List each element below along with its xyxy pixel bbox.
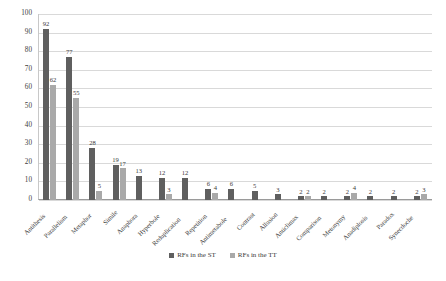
bar-column: 2 bbox=[321, 14, 327, 200]
bar-column: 6 bbox=[205, 14, 211, 200]
bar-value-label: 12 bbox=[159, 170, 166, 177]
y-axis-tick-label: 70 bbox=[25, 66, 32, 73]
bar-column: 3 bbox=[166, 14, 172, 200]
bar bbox=[113, 165, 119, 200]
bar-value-label: 92 bbox=[43, 21, 50, 28]
y-axis-tick-label: 50 bbox=[25, 103, 32, 110]
bar-column: 0 bbox=[282, 14, 288, 200]
legend-label: RFs in the TT bbox=[238, 252, 277, 259]
y-axis-tick-label: 30 bbox=[25, 141, 32, 148]
bar-column: 4 bbox=[351, 14, 357, 200]
bar bbox=[43, 29, 49, 200]
bar-value-label: 2 bbox=[299, 189, 302, 196]
bar-value-label: 5 bbox=[253, 183, 256, 190]
bar bbox=[205, 189, 211, 200]
bars-layer: 9262775528519171301231206460503022202420… bbox=[38, 14, 432, 200]
bar-group: 23 bbox=[409, 14, 432, 200]
y-axis-tick-label: 20 bbox=[25, 159, 32, 166]
legend-label: RFs in the ST bbox=[177, 252, 216, 259]
bar-group: 120 bbox=[177, 14, 200, 200]
y-axis-tick-label: 0 bbox=[28, 196, 32, 203]
bar-group: 50 bbox=[247, 14, 270, 200]
bar bbox=[73, 98, 79, 200]
bar-column: 2 bbox=[391, 14, 397, 200]
bar-column: 55 bbox=[73, 14, 79, 200]
bar bbox=[136, 176, 142, 200]
bar-value-label: 4 bbox=[214, 185, 217, 192]
bar-column: 13 bbox=[136, 14, 142, 200]
bar bbox=[66, 57, 72, 200]
bar-column: 0 bbox=[189, 14, 195, 200]
bar-value-label: 6 bbox=[230, 181, 233, 188]
legend-item[interactable]: RFs in the ST bbox=[169, 252, 216, 259]
x-axis-category: Metaphor bbox=[84, 201, 107, 251]
bar bbox=[252, 191, 258, 200]
bar-column: 0 bbox=[143, 14, 149, 200]
bar-group: 22 bbox=[293, 14, 316, 200]
bar-column: 0 bbox=[374, 14, 380, 200]
bar-chart: 0102030405060708090100 92627755285191713… bbox=[0, 0, 446, 281]
bar-column: 3 bbox=[275, 14, 281, 200]
bar-group: 30 bbox=[270, 14, 293, 200]
bar bbox=[367, 196, 373, 200]
bar-value-label: 77 bbox=[66, 49, 73, 56]
bar bbox=[298, 196, 304, 200]
bar-value-label: 2 bbox=[369, 189, 372, 196]
bar bbox=[50, 85, 56, 200]
bar-column: 0 bbox=[235, 14, 241, 200]
bar-group: 123 bbox=[154, 14, 177, 200]
bar bbox=[391, 196, 397, 200]
bar bbox=[182, 178, 188, 200]
legend-swatch-icon bbox=[230, 253, 235, 258]
bar-column: 62 bbox=[50, 14, 56, 200]
bar-value-label: 3 bbox=[276, 187, 279, 194]
legend-item[interactable]: RFs in the TT bbox=[230, 252, 277, 259]
bar-group: 20 bbox=[316, 14, 339, 200]
bar-column: 28 bbox=[89, 14, 95, 200]
bar-group: 20 bbox=[386, 14, 409, 200]
x-axis-category: Synecdoche bbox=[409, 201, 432, 251]
bar-column: 2 bbox=[305, 14, 311, 200]
bar-value-label: 6 bbox=[207, 181, 210, 188]
y-axis-tick-label: 60 bbox=[25, 85, 32, 92]
legend-swatch-icon bbox=[169, 253, 174, 258]
bar-value-label: 3 bbox=[167, 187, 170, 194]
bar-column: 17 bbox=[120, 14, 126, 200]
bar-value-label: 2 bbox=[392, 189, 395, 196]
bar-value-label: 62 bbox=[50, 77, 57, 84]
bar-column: 3 bbox=[421, 14, 427, 200]
y-axis-tick-label: 40 bbox=[25, 122, 32, 129]
bar-value-label: 28 bbox=[89, 140, 96, 147]
y-axis-tick-label: 80 bbox=[25, 48, 32, 55]
bar-column: 0 bbox=[259, 14, 265, 200]
bar-column: 6 bbox=[228, 14, 234, 200]
chart-legend: RFs in the STRFs in the TT bbox=[0, 252, 446, 259]
bar-value-label: 2 bbox=[322, 189, 325, 196]
bar-group: 285 bbox=[84, 14, 107, 200]
bar bbox=[89, 148, 95, 200]
bar-column: 12 bbox=[159, 14, 165, 200]
bar-column: 5 bbox=[252, 14, 258, 200]
bar-column: 2 bbox=[367, 14, 373, 200]
bar-column: 77 bbox=[66, 14, 72, 200]
bar bbox=[275, 194, 281, 200]
bar-value-label: 13 bbox=[135, 168, 142, 175]
bar-column: 5 bbox=[96, 14, 102, 200]
bar-value-label: 5 bbox=[98, 183, 101, 190]
bar-column: 2 bbox=[298, 14, 304, 200]
bar-value-label: 17 bbox=[119, 161, 126, 168]
bar-group: 24 bbox=[339, 14, 362, 200]
y-axis: 0102030405060708090100 bbox=[0, 14, 36, 200]
bar-value-label: 2 bbox=[346, 189, 349, 196]
bar-column: 12 bbox=[182, 14, 188, 200]
bar-column: 4 bbox=[212, 14, 218, 200]
bar-column: 2 bbox=[414, 14, 420, 200]
bar-value-label: 2 bbox=[415, 189, 418, 196]
bar-value-label: 3 bbox=[422, 187, 425, 194]
bar-group: 9262 bbox=[38, 14, 61, 200]
bar-value-label: 55 bbox=[73, 90, 80, 97]
bar-column: 92 bbox=[43, 14, 49, 200]
bar-group: 1917 bbox=[108, 14, 131, 200]
bar-value-label: 12 bbox=[182, 170, 189, 177]
bar-value-label: 19 bbox=[112, 157, 119, 164]
